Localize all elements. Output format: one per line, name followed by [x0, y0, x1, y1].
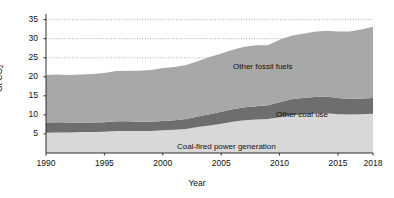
other-fossil-fuels-label: Other fossil fuels	[233, 62, 293, 71]
coal-power-label: Coal-fired power generation	[177, 142, 276, 151]
other-coal-use-label: Other coal use	[276, 110, 328, 119]
area-chart-canvas	[0, 0, 394, 198]
y-axis-title: Gt CO2	[0, 64, 4, 92]
chart-figure: 5101520253035 19901995200020052010201520…	[0, 0, 394, 198]
y-axis-title-text: Gt CO	[0, 68, 4, 92]
y-axis-title-subscript: 2	[0, 64, 4, 68]
stacked-areas-group	[46, 27, 373, 153]
x-axis-title: Year	[188, 178, 205, 188]
